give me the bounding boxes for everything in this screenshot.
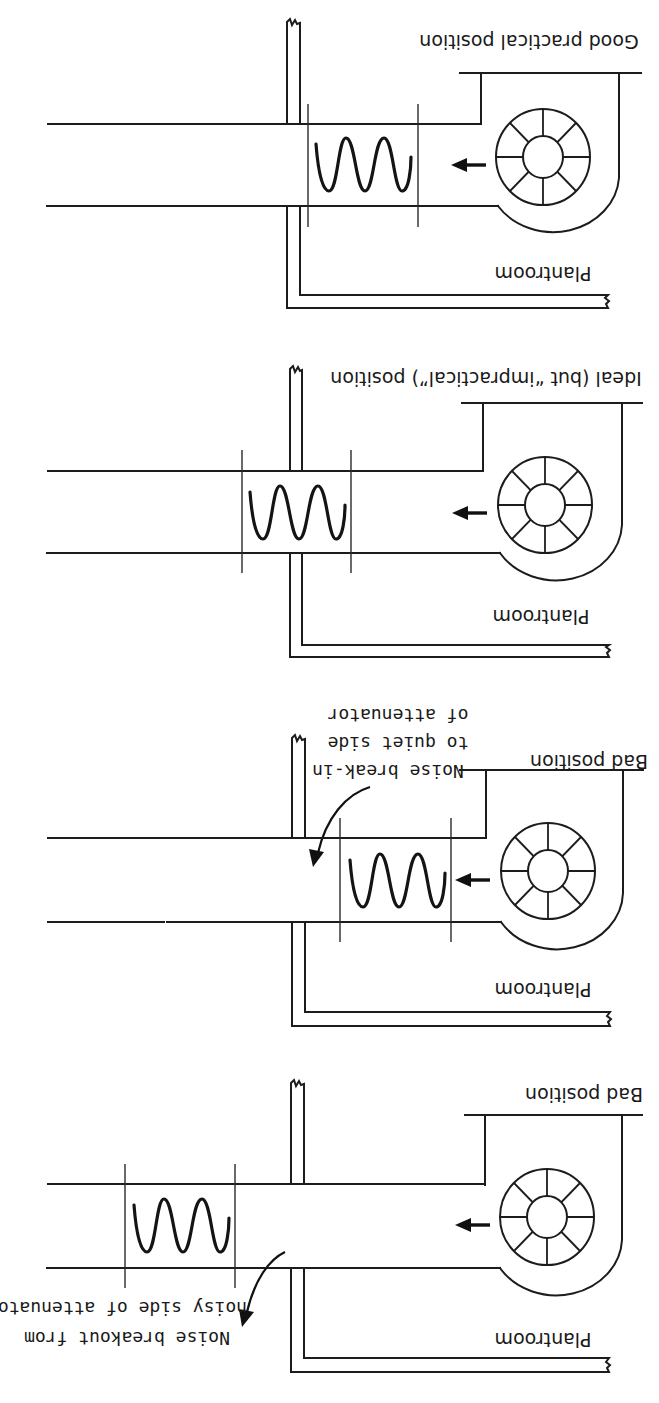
fan-icon — [501, 823, 595, 919]
attenuator — [340, 818, 451, 942]
annotation-line: noisy side of attenuator — [0, 1298, 247, 1319]
panel-title: Good practical position — [419, 31, 638, 53]
airflow-arrow-icon — [451, 158, 486, 172]
panel-ideal: Ideal (but “impractical”) position — [47, 366, 642, 657]
panel-bad-breakout: Bad position — [0, 1080, 643, 1372]
annotation-line: to quiet side — [328, 733, 469, 754]
annotation-line: Noise break-in — [312, 761, 464, 782]
attenuator-position-diagram: Good practical position — [0, 0, 659, 1403]
fan-icon — [500, 1169, 594, 1265]
attenuator — [242, 450, 351, 573]
airflow-arrow-icon — [455, 1218, 490, 1232]
annotation-noise-breakout: noisy side of attenuator Noise breakout … — [0, 1252, 285, 1349]
fan-icon — [498, 457, 592, 553]
duct — [47, 124, 498, 206]
attenuator — [125, 1164, 235, 1288]
panel-bad-break-in: Bad position Noise break-in to quiet sid… — [48, 705, 648, 1026]
room-label: Plantroom — [494, 263, 591, 285]
duct — [47, 1184, 500, 1268]
fan-icon — [496, 109, 590, 205]
panel-title: Ideal (but “impractical”) position — [330, 368, 642, 390]
panel-title: Bad position — [525, 1084, 643, 1106]
annotation-line: of attenuator — [327, 705, 468, 726]
room-label: Plantroom — [494, 1329, 591, 1351]
panel-good-practical: Good practical position — [47, 19, 641, 308]
room-label: Plantroom — [494, 979, 591, 1001]
airflow-arrow-icon — [455, 873, 490, 887]
annotation-line: Noise breakout from — [24, 1328, 230, 1349]
annotation-noise-break-in: Noise break-in to quiet side of attenuat… — [309, 705, 468, 867]
airflow-arrow-icon — [452, 506, 487, 520]
room-label: Plantroom — [492, 606, 589, 628]
duct — [48, 838, 501, 922]
attenuator — [308, 104, 418, 227]
